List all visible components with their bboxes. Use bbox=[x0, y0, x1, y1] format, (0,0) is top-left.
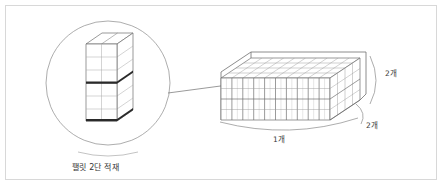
pallet-stack-caption: 팰릿 2단 적재 bbox=[72, 161, 119, 172]
caption-arc bbox=[78, 152, 138, 156]
depth-dimension-brace bbox=[356, 104, 363, 124]
cargo-front-grid bbox=[221, 78, 330, 120]
height-dimension-label: 2개 bbox=[385, 67, 397, 78]
figure-illustration bbox=[0, 0, 444, 187]
height-dimension-brace bbox=[370, 56, 376, 104]
magnifier-circle-group bbox=[46, 21, 170, 145]
container-shell-right-edge bbox=[360, 94, 366, 100]
depth-dimension-label: 2개 bbox=[366, 119, 378, 130]
container-3d-group bbox=[221, 52, 366, 120]
detail-leader-line bbox=[168, 85, 228, 93]
pallet-stack-group bbox=[86, 33, 133, 121]
figure-root: 팰릿 2단 적재 2개 2개 1개 bbox=[0, 0, 444, 187]
width-dimension-label: 1개 bbox=[273, 133, 285, 144]
